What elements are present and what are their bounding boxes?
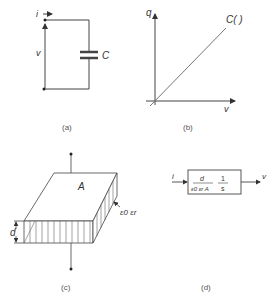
panel-d-block xyxy=(172,170,260,194)
panel-b-plot xyxy=(146,14,235,106)
terminal-top-c xyxy=(70,153,73,156)
block-denominator: ε0 εr A xyxy=(191,186,209,192)
output-label: v xyxy=(262,172,267,181)
linear-line xyxy=(150,28,226,106)
caption-b: (b) xyxy=(183,123,193,132)
thickness-label: d xyxy=(10,227,16,238)
permittivity-label: ε0 εr xyxy=(120,208,137,217)
caption-a: (a) xyxy=(62,123,72,132)
integrator-numerator: 1 xyxy=(221,175,225,182)
panel-c-plate xyxy=(14,154,120,268)
caption-d: (d) xyxy=(201,283,211,292)
panel-a-circuit xyxy=(43,14,98,89)
current-label: i xyxy=(36,9,39,19)
line-label: C( ) xyxy=(226,14,243,25)
terminal-bottom xyxy=(43,88,46,91)
terminal-bottom-c xyxy=(70,268,73,271)
block-numerator: d xyxy=(200,175,205,182)
terminal-top xyxy=(44,19,47,22)
integrator-denominator: s xyxy=(221,185,225,192)
input-label: i xyxy=(172,172,174,181)
capacitor-label: C xyxy=(102,50,110,61)
area-label: A xyxy=(77,181,85,192)
caption-c: (c) xyxy=(61,283,71,292)
x-axis-label: v xyxy=(224,104,229,114)
front-face xyxy=(24,221,93,243)
y-axis-label: q xyxy=(146,7,152,18)
voltage-label: v xyxy=(36,48,41,58)
capacitor-diagram: i v C (a) q v C( ) (b) xyxy=(0,0,276,301)
